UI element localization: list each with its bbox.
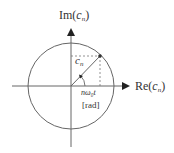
angle-label: nω₀t bbox=[81, 89, 96, 97]
real-axis-label: Re(cn) bbox=[135, 80, 165, 94]
imaginary-axis-label: Im(cn) bbox=[59, 9, 89, 23]
angle-unit-label: [rad] bbox=[82, 101, 100, 110]
angle-arc bbox=[81, 76, 85, 86]
phasor-point bbox=[98, 54, 102, 58]
phasor-label: cn bbox=[75, 55, 83, 68]
